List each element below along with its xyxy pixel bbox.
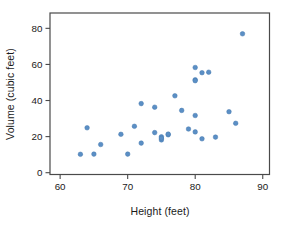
data-point [179,108,184,113]
data-point [152,105,157,110]
data-point [193,78,198,83]
data-point [200,70,205,75]
data-point [173,94,178,99]
data-point [132,124,137,129]
y-axis-tick-label: 40 [32,95,43,106]
data-point [193,130,198,135]
data-point [166,132,171,137]
data-point [92,152,97,157]
data-point [98,142,103,147]
x-axis-tick-label: 80 [190,181,201,192]
data-point [193,113,198,118]
y-axis-title: Volume (cubic feet) [4,48,16,140]
data-point [206,70,211,75]
data-point [213,135,218,140]
y-axis-tick-label: 20 [32,131,43,142]
plot-frame [50,13,270,175]
x-axis-tick-label: 60 [55,181,66,192]
data-point [139,101,144,106]
x-axis-tick-label: 90 [257,181,268,192]
data-point [186,127,191,132]
data-point [125,152,130,157]
y-axis-tick-label: 60 [32,59,43,70]
data-point [139,141,144,146]
data-point [240,32,245,37]
data-point [200,137,205,142]
data-point [159,136,164,141]
scatter-chart: 02040608060708090 [0,0,284,232]
x-axis-title: Height (feet) [130,205,189,217]
data-point [227,109,232,114]
data-point [85,126,90,131]
y-axis-tick-label: 80 [32,23,43,34]
data-point [119,132,124,137]
x-axis-tick-label: 70 [122,181,133,192]
data-point [193,65,198,70]
data-point [152,130,157,135]
scatter-plot-figure: 02040608060708090 Volume (cubic feet) He… [0,0,284,232]
data-point [78,152,83,157]
y-axis-tick-label: 0 [37,167,43,178]
data-point [233,121,238,126]
